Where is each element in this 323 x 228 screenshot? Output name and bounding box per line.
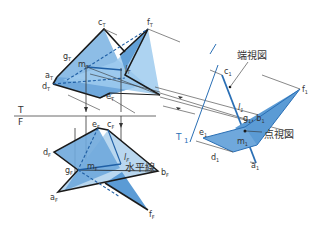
ext-f1 (262, 75, 300, 89)
label-a1: a1 (251, 161, 259, 171)
label-dT: dT (42, 82, 51, 92)
label-fT: fT (147, 18, 154, 28)
label-cF: cF (107, 120, 114, 130)
label-aF: aF (50, 193, 58, 203)
label-bF: bF (161, 168, 169, 178)
annotation-edge-view: 端視図 (237, 49, 267, 61)
fold-label-t1-t: T (175, 132, 182, 142)
ext-f (148, 29, 180, 42)
aux-proj-4 (163, 106, 195, 114)
label-gT: gT (63, 52, 72, 62)
auxiliary-view: 端視図 点視図 c1 f1 l1 g1, b1 e1 m1 d1 a1 (196, 49, 308, 171)
label-aT: aT (45, 71, 54, 81)
label-c1: c1 (224, 67, 232, 77)
label-eF: eF (92, 120, 100, 130)
leader-edge-view (230, 62, 248, 87)
fold-line-t1-ext (210, 44, 216, 54)
label-cT: cT (98, 18, 106, 28)
label-e1: e1 (199, 128, 207, 138)
front-view: eF cF dF gF mF lF bF aF fF 水平線 (43, 116, 169, 220)
arrow-m (84, 107, 88, 112)
folding-line-t1: T 1 (175, 44, 218, 145)
label-d1: d1 (211, 153, 219, 163)
label-dF: dF (43, 148, 51, 158)
label-g1b1: g1, b1 (243, 114, 265, 124)
annotation-horizontal-line: 水平線 (125, 161, 155, 173)
fold-label-t: T (17, 105, 24, 115)
diagram-canvas: cT fT gT mT aT dT eT lT T F eF cF dF g (0, 0, 323, 228)
fold-label-t1-1: 1 (184, 137, 188, 145)
annotation-point-view: 点視図 (264, 128, 294, 140)
label-fF: fF (149, 210, 155, 220)
label-gF: gF (65, 166, 73, 176)
fold-label-f: F (18, 117, 23, 127)
label-f1: f1 (302, 85, 308, 95)
arrow-l-front (119, 123, 123, 128)
